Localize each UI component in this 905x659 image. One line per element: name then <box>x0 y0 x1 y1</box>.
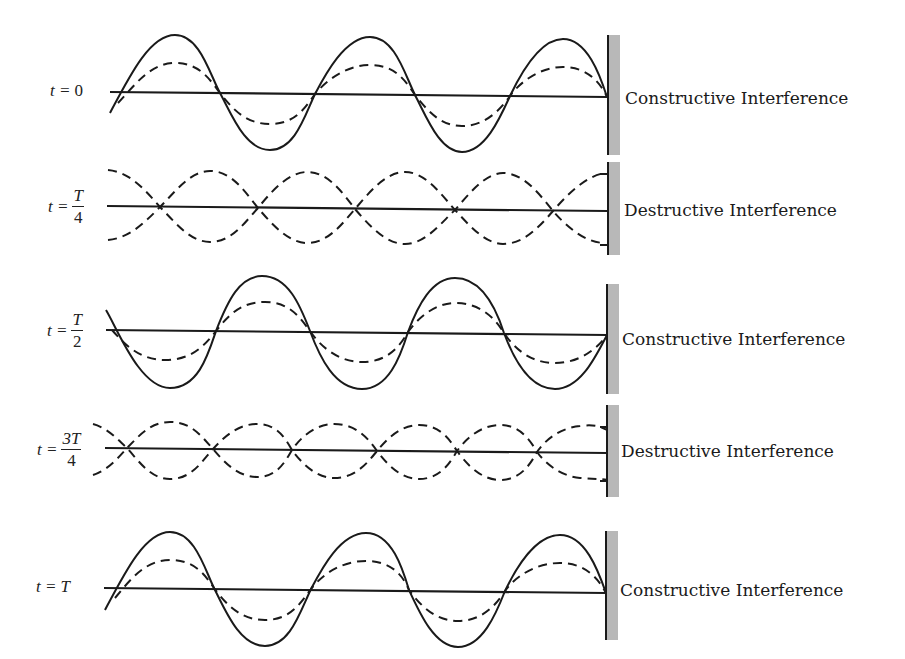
fraction-numerator: 3T <box>61 430 81 450</box>
row-t4-wall <box>608 162 620 255</box>
row-T-waves <box>104 531 618 647</box>
time-prefix: t = <box>36 577 56 597</box>
time-label-t-half: t = T 2 <box>47 311 83 350</box>
time-value: T <box>60 577 69 597</box>
time-label-T: t = T <box>36 577 70 597</box>
row-t0-wall <box>608 35 620 155</box>
time-label-t-three-quarter: t = 3T 4 <box>37 430 81 469</box>
row-t34-wall <box>607 405 619 497</box>
row-t4-waves <box>107 162 620 255</box>
time-fraction: 3T 4 <box>61 430 81 469</box>
row-t0-waves <box>110 35 620 155</box>
fraction-denominator: 2 <box>73 331 82 350</box>
interference-label-row4: Destructive Interference <box>621 441 834 461</box>
row-T-wall <box>606 531 618 640</box>
time-prefix: t = <box>37 440 57 460</box>
time-prefix: t = <box>47 321 67 341</box>
fraction-numerator: T <box>72 187 83 207</box>
time-prefix: t = <box>48 197 68 217</box>
row-t34-axis <box>105 448 607 453</box>
fraction-denominator: 4 <box>67 450 76 469</box>
interference-label-row5: Constructive Interference <box>620 580 843 600</box>
row-t0-axis <box>110 92 607 97</box>
fraction-numerator: T <box>71 311 82 331</box>
row-t2-wall <box>607 284 619 394</box>
row-T-axis <box>104 588 606 593</box>
time-fraction: T 4 <box>72 187 83 226</box>
row-t2-waves <box>106 276 619 394</box>
fraction-denominator: 4 <box>74 207 83 226</box>
time-label-t0: t = 0 <box>50 81 83 101</box>
time-fraction: T 2 <box>71 311 82 350</box>
interference-label-row2: Destructive Interference <box>624 200 837 220</box>
time-value: 0 <box>74 81 83 101</box>
row-t34-waves <box>93 405 619 497</box>
row-t2-axis <box>106 330 607 335</box>
interference-label-row3: Constructive Interference <box>622 329 845 349</box>
time-prefix: t = <box>50 81 70 101</box>
interference-label-row1: Constructive Interference <box>625 88 848 108</box>
time-label-t-quarter: t = T 4 <box>48 187 84 226</box>
